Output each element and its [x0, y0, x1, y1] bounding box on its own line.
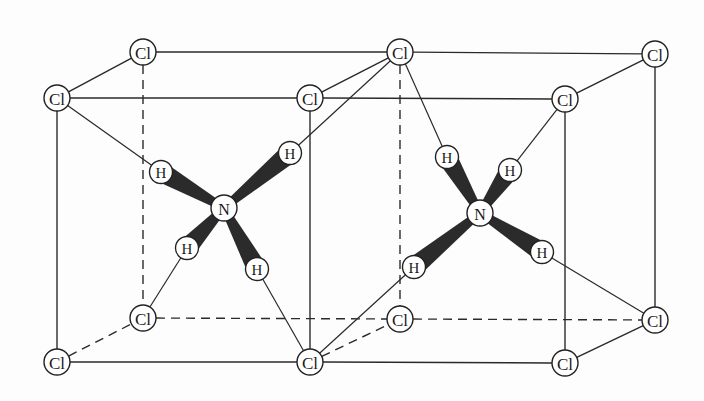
svg-text:Cl: Cl [49, 354, 65, 373]
chlorine-atom: Cl [552, 86, 578, 112]
hydrogen-atom: H [403, 256, 426, 279]
chlorine-atom: Cl [552, 350, 578, 376]
chlorine-atom: Cl [297, 349, 323, 375]
svg-text:H: H [182, 241, 193, 257]
cell-edge-solid [322, 58, 389, 92]
hydrogen-atom: H [499, 159, 522, 182]
cell-edge-hidden [413, 319, 642, 320]
chlorine-atom: Cl [642, 307, 668, 333]
svg-text:Cl: Cl [557, 91, 573, 110]
hydrogen-atom: H [279, 142, 302, 165]
svg-text:Cl: Cl [135, 310, 151, 329]
h-cl-bond-line [68, 106, 152, 166]
svg-text:Cl: Cl [392, 311, 408, 330]
svg-text:Cl: Cl [49, 90, 65, 109]
svg-text:N: N [218, 201, 230, 218]
nitrogen-atom: N [211, 195, 237, 221]
h-cl-bond-line [517, 109, 557, 161]
svg-text:Cl: Cl [302, 354, 318, 373]
h-cl-bond-line [150, 258, 181, 307]
chlorine-atom: Cl [387, 306, 413, 332]
svg-text:H: H [537, 245, 548, 261]
chlorine-atom: Cl [130, 39, 156, 65]
svg-text:Cl: Cl [392, 44, 408, 63]
svg-text:Cl: Cl [557, 355, 573, 374]
hydrogen-atom: H [176, 237, 199, 260]
hydrogen-atom: H [246, 258, 269, 281]
nitrogen-atom: N [467, 200, 493, 226]
h-cl-bond-line [263, 279, 304, 351]
svg-text:Cl: Cl [647, 312, 663, 331]
svg-text:N: N [474, 206, 486, 223]
cell-edge-solid [68, 58, 131, 92]
cell-edge-hidden [322, 325, 389, 357]
svg-text:Cl: Cl [647, 46, 663, 65]
chlorine-atom: Cl [387, 39, 413, 65]
hydrogen-atom: H [531, 241, 554, 264]
cell-edge-solid [577, 326, 644, 358]
hydrogen-atom: H [436, 146, 459, 169]
cell-edge-hidden [69, 324, 132, 356]
cell-edge-solid [323, 98, 552, 99]
svg-text:H: H [442, 150, 453, 166]
chlorine-atom: Cl [130, 305, 156, 331]
svg-text:H: H [409, 260, 420, 276]
nh4cl-crystal-diagram: ClClClClClClClClClClClClHHHHNHHHHN [0, 0, 704, 401]
h-cl-bond-line [405, 64, 442, 147]
chlorine-atom: Cl [44, 85, 70, 111]
crystal-structure-canvas: ClClClClClClClClClClClClHHHHNHHHHN [0, 0, 704, 401]
svg-text:H: H [156, 165, 167, 181]
cell-edge-hidden [156, 318, 387, 319]
chlorine-atom: Cl [297, 85, 323, 111]
cell-edge-solid [413, 52, 642, 54]
chlorine-atom: Cl [642, 41, 668, 67]
svg-text:H: H [505, 163, 516, 179]
svg-text:Cl: Cl [135, 44, 151, 63]
hydrogen-atom: H [150, 161, 173, 184]
svg-text:Cl: Cl [302, 90, 318, 109]
cell-edge-solid [577, 60, 644, 93]
svg-text:H: H [285, 146, 296, 162]
svg-text:H: H [252, 262, 263, 278]
atoms: ClClClClClClClClClClClClHHHHNHHHHN [44, 39, 668, 376]
chlorine-atom: Cl [44, 349, 70, 375]
cell-edge-solid [323, 362, 552, 363]
